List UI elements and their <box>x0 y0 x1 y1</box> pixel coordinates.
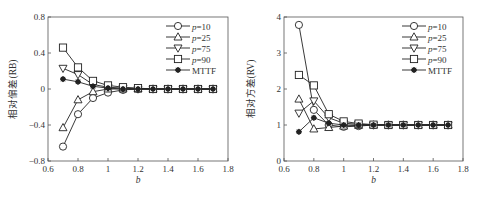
data-point <box>74 64 81 71</box>
legend-label: p=25 <box>191 33 211 43</box>
legend-marker <box>410 45 418 52</box>
data-point <box>310 106 317 113</box>
legend-item: MTTF <box>166 66 216 76</box>
legend-label-rest: =90 <box>197 55 212 65</box>
data-point <box>150 86 156 92</box>
legend-label: p=90 <box>191 55 211 65</box>
x-tick-label: 1.8 <box>457 164 469 174</box>
legend-marker <box>174 55 181 62</box>
data-point <box>356 122 362 128</box>
legend-label-rest: =10 <box>197 22 212 32</box>
data-point <box>180 86 186 92</box>
y-tick-label: 2 <box>277 84 282 94</box>
series-p-10 <box>59 85 216 150</box>
y-tick-label: 0.8 <box>34 12 46 22</box>
data-point <box>296 129 302 135</box>
data-point <box>89 94 96 101</box>
legend-marker <box>411 67 417 73</box>
legend-item: p=10 <box>166 22 211 32</box>
data-point <box>295 95 303 102</box>
x-tick-label: 1 <box>106 164 111 174</box>
data-point <box>295 110 303 117</box>
legend-label-rest: =75 <box>433 44 448 54</box>
legend-item: p=25 <box>166 33 211 43</box>
x-tick-label: 1.4 <box>398 164 410 174</box>
data-point <box>74 96 82 103</box>
legend-label: p=90 <box>427 55 447 65</box>
data-point <box>295 21 302 28</box>
legend: p=10p=25p=75p=90MTTF <box>166 22 216 76</box>
data-point <box>60 76 66 82</box>
legend-marker <box>174 33 182 40</box>
legend-label-rest: =25 <box>433 33 448 43</box>
data-point <box>430 122 436 128</box>
y-tick-label: 0.4 <box>34 48 46 58</box>
y-axis-title: 相对偏差(RB) <box>7 60 19 119</box>
data-point <box>311 115 317 121</box>
data-point <box>341 122 347 128</box>
legend-marker <box>174 45 182 52</box>
legend-label-rest: =25 <box>197 33 212 43</box>
x-tick-label: 1.8 <box>222 164 234 174</box>
legend-label-rest: MTTF <box>428 66 452 76</box>
series-line <box>63 48 213 89</box>
legend-label: p=75 <box>191 44 211 54</box>
y-axis-title: 相对方差(RV) <box>245 60 257 119</box>
legend-label: MTTF <box>192 66 216 76</box>
legend-label-rest: =75 <box>197 44 212 54</box>
y-tick-label: 4 <box>277 12 282 22</box>
data-point <box>371 122 377 128</box>
data-point <box>445 122 451 128</box>
legend-label: p=75 <box>427 44 447 54</box>
legend-item: p=75 <box>402 44 447 54</box>
x-tick-label: 1.2 <box>132 164 143 174</box>
x-tick-label: 0.8 <box>308 164 320 174</box>
data-point <box>105 85 111 91</box>
x-tick-label: 1.2 <box>368 164 379 174</box>
legend-label: p=25 <box>427 33 447 43</box>
data-point <box>59 65 67 72</box>
x-axis-title: b <box>371 175 376 185</box>
data-point <box>75 79 81 85</box>
legend-marker <box>410 55 417 62</box>
data-point <box>74 111 81 118</box>
data-point <box>59 124 67 131</box>
x-tick-label: 0.8 <box>72 164 84 174</box>
legend: p=10p=25p=75p=90MTTF <box>402 22 452 76</box>
chart-relative-variance: 0.60.811.21.41.61.801234b相对方差(RV)p=10p=2… <box>245 12 469 185</box>
chart-relative-bias: 0.60.811.21.41.61.8−0.8−0.400.40.8b相对偏差(… <box>7 12 234 185</box>
data-point <box>400 122 406 128</box>
data-point <box>59 44 66 51</box>
series-line <box>299 25 448 127</box>
figure: 0.60.811.21.41.61.8−0.8−0.400.40.8b相对偏差(… <box>0 0 481 197</box>
legend-item: p=75 <box>166 44 211 54</box>
legend-item: p=90 <box>402 55 447 65</box>
legend-label: p=10 <box>427 22 447 32</box>
x-tick-label: 1.6 <box>192 164 204 174</box>
legend-item: p=10 <box>402 22 447 32</box>
legend-marker <box>410 22 417 29</box>
y-tick-label: −0.4 <box>29 120 46 130</box>
legend-label-rest: =10 <box>433 22 448 32</box>
y-tick-label: 0 <box>277 156 282 166</box>
y-tick-label: 3 <box>277 48 282 58</box>
legend-label-rest: MTTF <box>192 66 216 76</box>
data-point <box>295 71 302 78</box>
series-mttf <box>296 115 451 135</box>
y-tick-label: 1 <box>277 120 282 130</box>
data-point <box>120 86 126 92</box>
data-point <box>310 82 317 89</box>
legend-item: p=90 <box>166 55 211 65</box>
legend-marker <box>174 22 181 29</box>
data-point <box>195 86 201 92</box>
x-axis-title: b <box>136 175 141 185</box>
legend-label-rest: =90 <box>433 55 448 65</box>
data-point <box>59 143 66 150</box>
legend-item: p=25 <box>402 33 447 43</box>
x-tick-label: 1.4 <box>162 164 174 174</box>
x-tick-label: 1.6 <box>428 164 440 174</box>
y-tick-label: 0 <box>41 84 46 94</box>
series-line <box>63 89 213 128</box>
data-point <box>325 111 332 118</box>
legend-label: MTTF <box>428 66 452 76</box>
